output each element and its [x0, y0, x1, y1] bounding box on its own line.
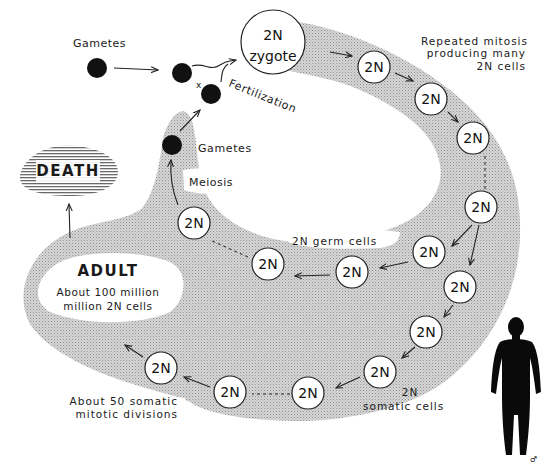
somatic-divisions-line-2: mitotic divisions — [76, 408, 178, 420]
cell-mitosis-3: 2N — [457, 122, 489, 154]
gametes-mid-label: Gametes — [198, 142, 252, 155]
arrow-fertilization-join — [221, 64, 228, 82]
cell-label: 2N — [342, 264, 361, 280]
cell-somatic-1: 2N — [444, 271, 476, 303]
repeated-mitosis-line-1: Repeated mitosis — [421, 35, 528, 47]
human-male-silhouette-icon — [491, 317, 541, 455]
cell-label: 2N — [463, 130, 482, 146]
death-cloud: DEATH — [20, 146, 118, 197]
cell-somatic-4: 2N — [292, 377, 324, 409]
repeated-mitosis-line-2: producing many — [427, 47, 526, 59]
gamete-mid-icon — [162, 135, 182, 155]
cell-label: 2N — [151, 360, 170, 376]
cell-somatic-3: 2N — [364, 356, 396, 388]
somatic-cells-line-2: somatic cells — [363, 400, 444, 412]
stippled-lifecycle-band — [23, 18, 520, 421]
cross-symbol: x — [196, 80, 202, 90]
adult-title: ADULT — [77, 262, 138, 280]
cell-somatic-6: 2N — [145, 352, 177, 384]
diagram-canvas: DEATH Gametes x Fertilization Gametes Me… — [0, 0, 557, 466]
zygote-label: zygote — [249, 48, 296, 64]
cell-label: 2N — [298, 385, 317, 401]
cell-label: 2N — [258, 256, 277, 272]
cell-label: 2N — [370, 364, 389, 380]
cell-somatic-5: 2N — [214, 376, 246, 408]
cell-mitosis-1: 2N — [358, 51, 390, 83]
male-symbol: ♂ — [530, 455, 537, 464]
cell-label: 2N — [419, 244, 438, 260]
life-cycle-diagram: DEATH Gametes x Fertilization Gametes Me… — [0, 0, 557, 466]
cell-somatic-2: 2N — [410, 316, 442, 348]
cell-label: 2N — [450, 279, 469, 295]
cell-label: 2N — [416, 324, 435, 340]
gamete-fusion-1-icon — [172, 63, 192, 83]
somatic-cells-line-1: 2N — [402, 386, 419, 398]
germ-cells-label: 2N germ cells — [292, 235, 377, 247]
somatic-divisions-line-1: About 50 somatic — [70, 395, 178, 407]
cell-germ-1: 2N — [413, 236, 445, 268]
cell-label: 2N — [471, 199, 490, 215]
cell-germ-4: 2N — [178, 207, 210, 239]
cell-germ-3: 2N — [252, 248, 284, 280]
adult-line-1: About 100 million — [57, 286, 160, 298]
gametes-top-label: Gametes — [73, 37, 126, 50]
fertilization-label: Fertilization — [227, 77, 299, 116]
meiosis-label: Meiosis — [189, 176, 233, 189]
zygote-ploidy: 2N — [263, 27, 282, 43]
gamete-top-icon — [87, 58, 107, 78]
cell-mitosis-2: 2N — [415, 83, 447, 115]
death-label: DEATH — [36, 162, 99, 180]
gamete-fusion-2-icon — [201, 84, 221, 104]
arrow-fertilization — [192, 60, 236, 68]
cell-label: 2N — [184, 215, 203, 231]
cell-label: 2N — [220, 384, 239, 400]
adult-line-2: million 2N cells — [63, 300, 152, 312]
cell-germ-2: 2N — [336, 256, 368, 288]
cell-label: 2N — [364, 59, 383, 75]
repeated-mitosis-line-3: 2N cells — [477, 60, 526, 72]
cell-branch-point: 2N — [465, 191, 497, 223]
cell-label: 2N — [421, 91, 440, 107]
arrow-gamete-to-fusion — [114, 68, 158, 70]
